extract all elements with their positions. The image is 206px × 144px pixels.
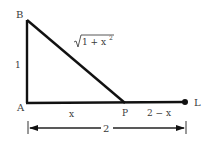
segment-al xyxy=(26,102,185,103)
label-side-bp: 1 + x 2 xyxy=(74,34,114,47)
label-dimension: 2 xyxy=(103,123,109,134)
triangle-diagram: B A P L 1 x 2 − x 2 1 + x 2 xyxy=(0,0,206,144)
arrowhead-left-icon xyxy=(29,125,38,131)
diagram-canvas: B A P L 1 x 2 − x 2 1 + x 2 xyxy=(0,0,206,144)
label-l: L xyxy=(194,97,201,108)
label-p: P xyxy=(122,108,128,118)
label-side-pl: 2 − x xyxy=(147,108,171,118)
label-side-ab: 1 xyxy=(15,60,21,70)
label-side-ap: x xyxy=(69,109,74,119)
arrowhead-right-icon xyxy=(176,125,185,131)
label-b: B xyxy=(16,9,23,20)
endpoint-l-dot xyxy=(182,99,188,105)
label-side-bp-exponent: 2 xyxy=(109,34,113,41)
label-side-bp-radicand: 1 + x xyxy=(82,37,106,47)
segment-bp xyxy=(27,20,125,103)
label-a: A xyxy=(16,102,25,113)
